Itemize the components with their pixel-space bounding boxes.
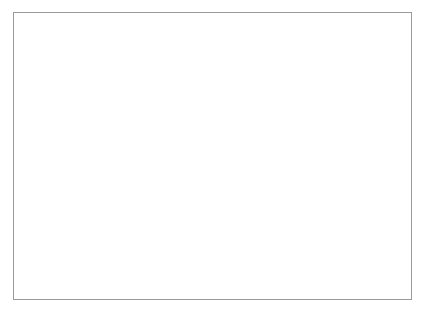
chart-container: Trillion USD 00.20.40.60.81.01.21.41.6 1…	[0, 0, 424, 312]
chart-frame-border	[13, 12, 412, 300]
